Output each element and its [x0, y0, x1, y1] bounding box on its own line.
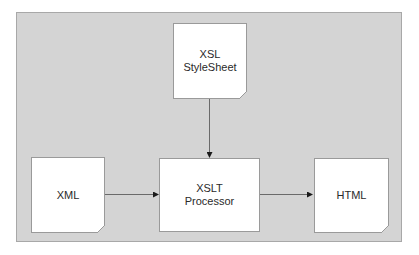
page-fold-icon: [381, 225, 389, 233]
node-label: XSLT Processor: [185, 182, 235, 208]
node-label: HTML: [337, 189, 367, 202]
node-xml: XML: [31, 157, 105, 233]
node-label: XML: [57, 189, 80, 202]
node-label: XSL StyleSheet: [183, 48, 236, 74]
page-fold-icon: [239, 91, 247, 99]
node-xsl-stylesheet: XSL StyleSheet: [173, 23, 247, 99]
node-xslt-processor: XSLT Processor: [159, 158, 260, 232]
node-html: HTML: [314, 158, 389, 233]
page-fold-icon: [97, 225, 105, 233]
diagram-canvas: XSL StyleSheet XML XSLT Processor HTML: [0, 0, 419, 255]
